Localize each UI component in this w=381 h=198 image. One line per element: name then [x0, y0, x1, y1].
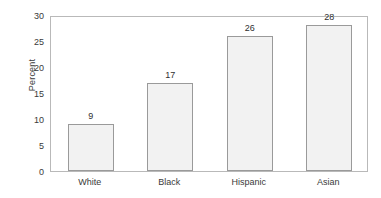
bar-group: 9 — [68, 15, 114, 171]
bar-chart: Percent 051015202530 9172628 WhiteBlackH… — [0, 0, 381, 198]
y-axis-tick-label: 5 — [22, 141, 44, 152]
bar-value-label: 28 — [306, 12, 352, 23]
y-axis-tick-labels: 051015202530 — [22, 11, 44, 177]
plot-area: 9172628 — [51, 17, 367, 171]
bar[interactable] — [147, 83, 193, 171]
y-axis-tick-label: 20 — [22, 63, 44, 74]
bar-value-label: 9 — [68, 111, 114, 122]
y-axis-tick-label: 15 — [22, 89, 44, 100]
x-axis-tick-label: Asian — [288, 176, 368, 188]
bar-value-label: 17 — [147, 70, 193, 81]
bar[interactable] — [68, 124, 114, 171]
bar[interactable] — [227, 36, 273, 171]
x-axis-tick-label: Black — [129, 176, 209, 188]
y-axis-tick-label: 0 — [22, 167, 44, 178]
y-axis-tick-label: 30 — [22, 11, 44, 22]
bar-group: 28 — [306, 15, 352, 171]
plot-frame: 9172628 — [50, 16, 368, 172]
y-axis-tick-label: 25 — [22, 37, 44, 48]
bar[interactable] — [306, 25, 352, 171]
y-axis-tick-label: 10 — [22, 115, 44, 126]
x-axis-tick-label: White — [50, 176, 130, 188]
bar-group: 17 — [147, 15, 193, 171]
bar-value-label: 26 — [227, 23, 273, 34]
bar-group: 26 — [227, 15, 273, 171]
x-axis-tick-labels: WhiteBlackHispanicAsian — [50, 176, 368, 192]
x-axis-tick-label: Hispanic — [209, 176, 289, 188]
